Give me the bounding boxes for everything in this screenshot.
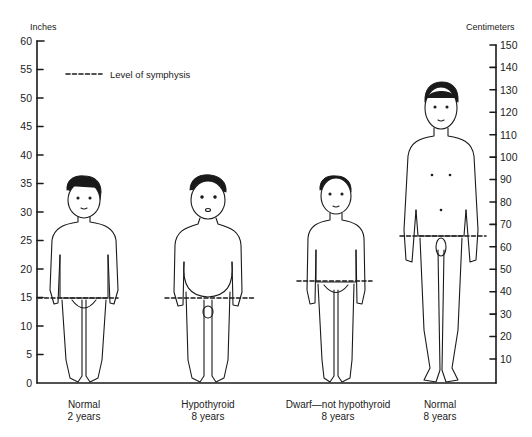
caption-label: Normal xyxy=(400,399,480,411)
caption-label: Normal xyxy=(44,399,124,411)
figure-normal-8-years xyxy=(404,82,478,382)
caption-label: Dwarf—not hypothyroid xyxy=(276,399,400,411)
symphysis-lines xyxy=(38,236,486,298)
right-axis xyxy=(490,45,496,383)
caption-label: Hypothyroid xyxy=(168,399,248,411)
caption-normal-2-years: Normal 2 years xyxy=(44,399,124,423)
caption-normal-8-years: Normal 8 years xyxy=(400,399,480,423)
figure-normal-2-years xyxy=(50,176,118,382)
figure-hypothyroid-8-years xyxy=(174,175,242,382)
caption-dwarf-8-years: Dwarf—not hypothyroid 8 years xyxy=(276,399,400,423)
caption-age: 8 years xyxy=(276,411,400,423)
caption-age: 2 years xyxy=(44,411,124,423)
caption-age: 8 years xyxy=(168,411,248,423)
left-axis xyxy=(37,41,44,383)
figure-dwarf-8-years xyxy=(307,176,365,382)
caption-age: 8 years xyxy=(400,411,480,423)
stature-diagram xyxy=(0,0,532,437)
caption-hypothyroid-8-years: Hypothyroid 8 years xyxy=(168,399,248,423)
